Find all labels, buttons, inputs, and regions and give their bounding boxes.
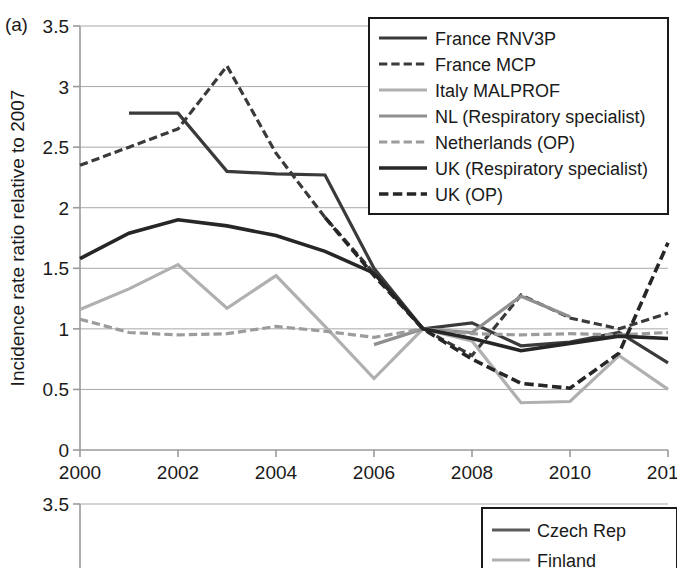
x-tick-label: 2002: [157, 462, 199, 483]
y-tick-label: 1.5: [43, 258, 69, 279]
y-tick-label: 2.5: [43, 137, 69, 158]
x-tick-label: 2000: [59, 462, 101, 483]
x-tick-label: 2012: [647, 462, 677, 483]
y-tick-label: 3.5: [43, 16, 69, 37]
panel-b-chart: 3.5Czech RepFinland: [0, 490, 677, 568]
panel-a-chart: 00.511.522.533.5200020022004200620082010…: [0, 0, 677, 490]
legend-label: NL (Respiratory specialist): [435, 107, 645, 127]
legend-label: Italy MALPROF: [435, 81, 560, 101]
figure-container: (a) 00.511.522.533.520002002200420062008…: [0, 0, 677, 568]
legend-label: Czech Rep: [537, 521, 626, 541]
legend-label: Finland: [537, 551, 596, 568]
legend-label: Netherlands (OP): [435, 133, 575, 153]
y-tick-label: 2: [58, 198, 69, 219]
y-axis-title: Incidence rate ratio relative to 2007: [7, 90, 28, 387]
y-tick-label: 1: [58, 319, 69, 340]
panel-a: (a) 00.511.522.533.520002002200420062008…: [0, 0, 677, 490]
legend-label: France RNV3P: [435, 29, 556, 49]
y-tick-label: 3: [58, 77, 69, 98]
series-line: [80, 319, 668, 337]
series-line: [325, 217, 668, 388]
x-tick-label: 2004: [255, 462, 298, 483]
legend-label: UK (OP): [435, 185, 503, 205]
y-tick-label: 3.5: [43, 494, 69, 515]
x-tick-label: 2010: [549, 462, 591, 483]
panel-b: (b) 3.5Czech RepFinland: [0, 490, 677, 568]
y-tick-label: 0.5: [43, 379, 69, 400]
x-tick-label: 2006: [353, 462, 395, 483]
x-tick-label: 2008: [451, 462, 493, 483]
y-tick-label: 0: [58, 440, 69, 461]
series-line: [80, 220, 668, 351]
legend-label: France MCP: [435, 55, 536, 75]
legend-label: UK (Respiratory specialist): [435, 159, 648, 179]
